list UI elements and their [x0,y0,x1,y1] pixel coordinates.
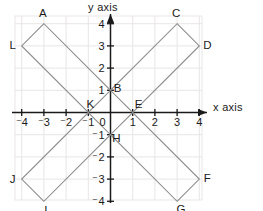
y-tick-label: 1 [98,84,104,96]
point-label-i: I [44,204,47,211]
x-tick-label: 1 [130,116,136,128]
point-label-k: K [86,98,94,110]
x-tick-label: ⁻1 [82,116,94,128]
point-label-d: D [203,39,211,51]
x-tick-label: 4 [196,116,202,128]
point-label-j: J [10,173,16,185]
y-tick-label: ⁻2 [92,151,104,163]
point-label-g: G [177,203,186,211]
x-tick-label: ⁻2 [60,116,72,128]
y-tick-label: ⁻1 [92,129,104,141]
point-label-f: F [204,172,211,184]
point-label-h: H [112,132,120,144]
plot-area: ⁻4⁻3⁻2⁻101234⁻4⁻3⁻2⁻11234 ABCDEFGHIJKL [0,0,263,211]
y-tick-label: 2 [98,62,104,74]
y-tick-label: ⁻3 [92,173,104,185]
y-tick-label: 3 [98,40,104,52]
x-tick-label: ⁻4 [16,116,28,128]
y-axis-arrowhead [107,14,114,23]
x-tick-label: ⁻3 [38,116,50,128]
point-label-a: A [39,7,47,19]
coordinate-plane-figure: y axis x axis ⁻4⁻3⁻2⁻101234⁻4⁻3⁻2⁻11234 … [0,0,263,211]
axis-lines [12,14,207,203]
point-label-c: C [172,7,180,19]
y-tick-label: ⁻4 [92,195,104,207]
point-label-l: L [9,39,16,51]
x-tick-label: 3 [174,116,180,128]
y-tick-label: 4 [98,18,104,30]
point-label-b: B [114,82,122,94]
x-tick-label: 2 [152,116,158,128]
point-label-e: E [135,98,143,110]
x-tick-label: 0 [99,116,105,128]
gridlines [15,16,202,200]
